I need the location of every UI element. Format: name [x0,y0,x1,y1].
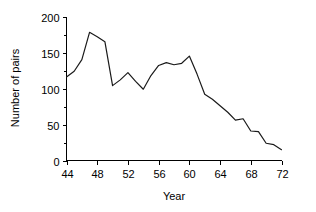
x-axis-ticks [68,161,283,165]
y-tick-label: 50 [47,120,59,132]
x-tick-label: 52 [122,168,134,180]
x-axis-title: Year [163,190,186,202]
x-tick-label: 56 [153,168,165,180]
y-tick-label: 0 [53,156,59,168]
x-tick-label: 60 [183,168,195,180]
x-tick-label: 68 [245,168,257,180]
y-tick-label: 100 [41,84,59,96]
x-tick-label: 72 [276,168,288,180]
y-axis-title: Number of pairs [9,48,21,127]
data-series-line [67,32,282,149]
chart-container: 050100150200 4448525660646872 Year Numbe… [0,0,316,212]
y-axis-tick-labels: 050100150200 [41,12,59,168]
x-tick-label: 48 [91,168,103,180]
y-axis-ticks [63,18,67,162]
x-tick-label: 44 [61,168,73,180]
x-tick-label: 64 [214,168,226,180]
y-tick-label: 150 [41,48,59,60]
line-chart: 050100150200 4448525660646872 Year Numbe… [0,0,316,212]
x-axis-tick-labels: 4448525660646872 [61,168,288,180]
y-tick-label: 200 [41,12,59,24]
